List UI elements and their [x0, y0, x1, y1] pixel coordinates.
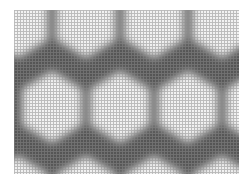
honeycomb-pattern [14, 10, 239, 174]
honeycomb-image [14, 10, 239, 174]
grid-overlay [14, 10, 239, 174]
